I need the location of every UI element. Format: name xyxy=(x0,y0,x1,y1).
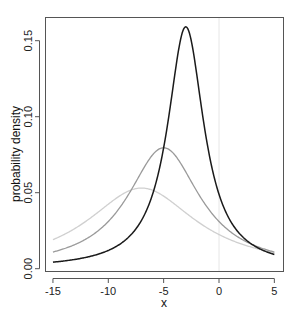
x-tick-label: 0 xyxy=(216,285,222,297)
x-tick-label: 5 xyxy=(271,285,277,297)
density-chart: -15-10-505 0.000.050.100.15 x probabilit… xyxy=(0,0,296,316)
y-tick-label: 0.15 xyxy=(22,30,34,51)
curve-cauchy-loc-minus7-scale6 xyxy=(53,188,274,253)
curve-cauchy-loc-minus3-scale2 xyxy=(53,27,274,262)
x-axis-title: x xyxy=(161,296,167,310)
y-tick-label: 0.05 xyxy=(22,182,34,203)
y-tick-label: 0.10 xyxy=(22,106,34,127)
x-axis: -15-10-505 xyxy=(45,279,277,298)
x-tick-label: -15 xyxy=(45,285,61,297)
y-axis: 0.000.050.100.15 xyxy=(22,30,40,279)
y-tick-label: 0.00 xyxy=(22,258,34,279)
density-curves xyxy=(53,27,274,262)
y-axis-title: probability density xyxy=(9,106,23,202)
x-tick-label: -10 xyxy=(100,285,116,297)
